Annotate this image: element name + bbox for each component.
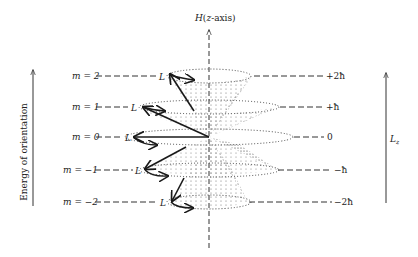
level-m2: m = 2 L [72, 71, 165, 82]
lz-label-minus2: −2ħ [334, 197, 353, 207]
svg-text:m = 2: m = 2 [72, 71, 100, 81]
svg-text:L: L [159, 198, 166, 208]
level-m-1: m = −1 L [63, 165, 141, 176]
svg-text:m = 0: m = 0 [72, 132, 100, 142]
m-levels: m = 2 L m = 1 L m = 0 L m = −1 L m = −2 … [63, 71, 166, 208]
svg-text:m = −2: m = −2 [63, 197, 98, 207]
z-axis-label: H(z-axis) [194, 13, 236, 23]
lz-axis-label: Lz [389, 134, 400, 145]
svg-text:m = −1: m = −1 [63, 165, 98, 175]
level-m0: m = 0 L [72, 132, 131, 143]
svg-text:m = 1: m = 1 [72, 102, 100, 112]
svg-text:L: L [130, 103, 137, 113]
svg-text:L: L [124, 133, 131, 143]
energy-axis-label: Energy of orientation [19, 103, 29, 201]
lz-label-plus1: +ħ [326, 102, 340, 112]
lz-levels: +2ħ +ħ 0 −ħ −2ħ [249, 71, 353, 207]
lz-label-minus1: −ħ [334, 165, 348, 175]
angular-momentum-diagram: Energy of orientation Lz H(z-axis) [0, 0, 418, 257]
lz-label-zero: 0 [327, 132, 333, 142]
svg-text:L: L [158, 72, 165, 82]
precession-cones [140, 76, 278, 209]
svg-text:L: L [134, 166, 141, 176]
level-m1: m = 1 L [72, 102, 137, 113]
lz-label-plus2: +2ħ [326, 71, 345, 81]
level-m-2: m = −2 L [63, 197, 166, 208]
